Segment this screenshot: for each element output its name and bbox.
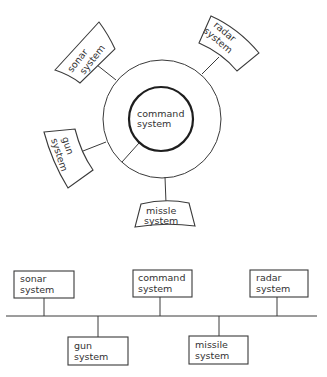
bus-gun-label-line1: gun — [74, 340, 92, 351]
gun-connector — [83, 142, 106, 151]
bus-node-missile[interactable]: missile system — [189, 336, 248, 364]
ring-node-sonar[interactable]: sonar system — [55, 22, 115, 83]
bus-missile-label-line2: system — [195, 350, 229, 361]
missile-connector — [165, 177, 166, 203]
radar-connector — [202, 57, 219, 74]
bus-node-command[interactable]: command system — [133, 270, 192, 297]
bus-command-label-line2: system — [138, 283, 172, 294]
bus-node-gun[interactable]: gun system — [68, 337, 128, 365]
ring-node-gun[interactable]: gun system — [44, 129, 93, 188]
sonar-connector — [97, 65, 116, 80]
bus-node-sonar[interactable]: sonar system — [14, 271, 74, 298]
ring-topology: command system sonar system radar system… — [44, 16, 259, 227]
bus-missile-label-line1: missile — [195, 339, 228, 350]
bus-radar-label-line1: radar — [256, 272, 282, 283]
bus-gun-label-line2: system — [74, 351, 108, 362]
missile-label-line2: system — [144, 215, 178, 226]
ring-spoke — [122, 143, 139, 162]
system-architecture-diagram: command system sonar system radar system… — [0, 0, 327, 377]
bus-topology: sonar system command system radar system… — [6, 270, 317, 365]
ring-node-radar[interactable]: radar system — [199, 16, 259, 71]
bus-radar-label-line2: system — [256, 283, 290, 294]
ring-node-missile[interactable]: missle system — [135, 201, 195, 227]
bus-node-radar[interactable]: radar system — [250, 270, 308, 297]
bus-command-label-line1: command — [138, 272, 185, 283]
bus-sonar-label-line2: system — [20, 284, 54, 295]
command-label-line2: system — [137, 118, 171, 129]
bus-sonar-label-line1: sonar — [20, 273, 47, 284]
